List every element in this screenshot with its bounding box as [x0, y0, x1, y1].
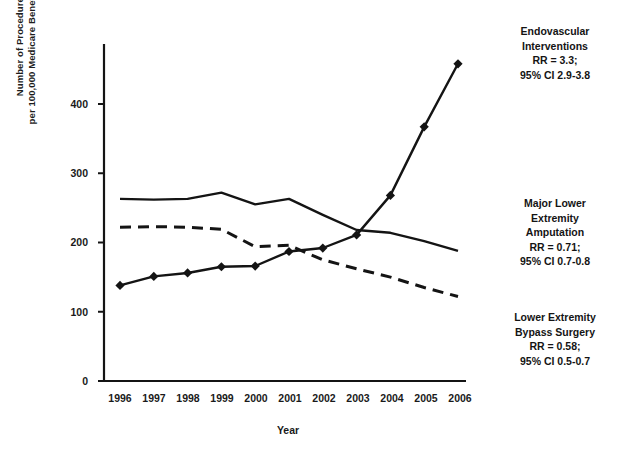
annotation-endovascular-line-2: Interventions — [480, 39, 630, 54]
annotation-amputation-line-3: Amputation — [480, 225, 630, 240]
annotation-bypass-line-2: Bypass Surgery — [480, 325, 630, 340]
annotation-endovascular-interventions: Endovascular Interventions RR = 3.3; 95%… — [480, 24, 630, 82]
annotation-lower-extremity-bypass-surgery: Lower Extremity Bypass Surgery RR = 0.58… — [480, 310, 630, 368]
data-point-marker — [183, 268, 192, 277]
annotation-amputation-line-5: 95% CI 0.7-0.8 — [480, 254, 630, 269]
data-point-marker — [149, 272, 158, 281]
annotation-major-lower-extremity-amputation: Major Lower Extremity Amputation RR = 0.… — [480, 196, 630, 269]
data-point-marker — [217, 262, 226, 271]
series-line-major-lower-extremity-amputation — [120, 193, 458, 251]
series-path — [120, 193, 458, 251]
annotation-amputation-line-4: RR = 0.71; — [480, 240, 630, 255]
annotation-bypass-line-3: RR = 0.58; — [480, 339, 630, 354]
data-point-marker — [420, 122, 429, 131]
data-point-marker — [115, 281, 124, 290]
series-line-endovascular-interventions — [115, 59, 462, 290]
data-point-marker — [318, 243, 327, 252]
chart-figure: Number of Procedures per 100,000 Medicar… — [0, 0, 636, 455]
annotation-endovascular-line-3: RR = 3.3; — [480, 53, 630, 68]
data-point-marker — [251, 261, 260, 270]
annotation-amputation-line-2: Extremity — [480, 211, 630, 226]
data-point-marker — [284, 247, 293, 256]
annotation-amputation-line-1: Major Lower — [480, 196, 630, 211]
annotation-endovascular-line-1: Endovascular — [480, 24, 630, 39]
data-point-marker — [453, 59, 462, 68]
annotation-endovascular-line-4: 95% CI 2.9-3.8 — [480, 68, 630, 83]
annotation-bypass-line-4: 95% CI 0.5-0.7 — [480, 354, 630, 369]
annotation-bypass-line-1: Lower Extremity — [480, 310, 630, 325]
